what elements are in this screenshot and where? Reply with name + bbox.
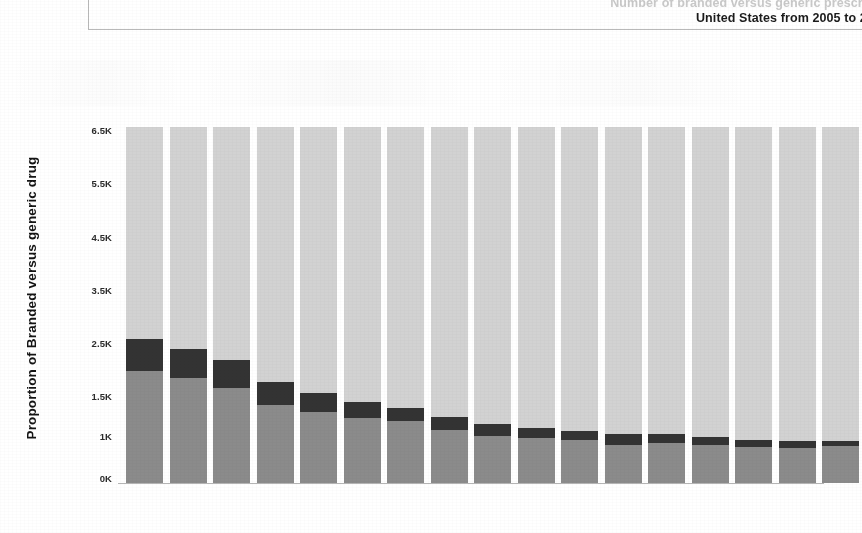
bar-segment-other[interactable] [605, 445, 642, 483]
bar-segment-generic[interactable] [822, 127, 859, 441]
bar-2019[interactable] [735, 127, 772, 483]
bar-segment-generic[interactable] [518, 127, 555, 428]
bar-segment-other[interactable] [300, 412, 337, 483]
bar-2008[interactable] [257, 127, 294, 483]
y-axis-title-label: Proportion of Branded versus generic dru… [24, 157, 39, 440]
bar-segment-generic[interactable] [344, 127, 381, 402]
bar-segment-branded[interactable] [257, 382, 294, 405]
bar-2013[interactable] [474, 127, 511, 483]
y-axis-tick-label: 1.5K [60, 392, 112, 402]
y-axis-title: Proportion of Branded versus generic dru… [18, 108, 44, 488]
bar-2005[interactable] [126, 127, 163, 483]
bar-segment-other[interactable] [648, 443, 685, 483]
bar-2018[interactable] [692, 127, 729, 483]
bar-segment-other[interactable] [126, 371, 163, 483]
bar-2007[interactable] [213, 127, 250, 483]
bar-segment-branded[interactable] [518, 428, 555, 438]
bar-segment-generic[interactable] [431, 127, 468, 417]
bar-2016[interactable] [605, 127, 642, 483]
bar-segment-other[interactable] [170, 378, 207, 483]
y-axis-tick-label: 1K [60, 432, 112, 442]
bar-2010[interactable] [344, 127, 381, 483]
bar-segment-other[interactable] [257, 405, 294, 483]
bar-segment-generic[interactable] [474, 127, 511, 424]
bar-2006[interactable] [170, 127, 207, 483]
bar-segment-generic[interactable] [561, 127, 598, 431]
bar-segment-branded[interactable] [561, 431, 598, 440]
bar-segment-branded[interactable] [213, 360, 250, 388]
y-axis-tick-label: 4.5K [60, 233, 112, 243]
bar-segment-other[interactable] [431, 430, 468, 483]
bar-2012[interactable] [431, 127, 468, 483]
x-axis-baseline [118, 483, 824, 484]
bar-segment-other[interactable] [387, 421, 424, 483]
y-axis-tick-label: 6.5K [60, 126, 112, 136]
bar-2015[interactable] [561, 127, 598, 483]
bar-segment-generic[interactable] [648, 127, 685, 434]
bar-segment-branded[interactable] [431, 417, 468, 430]
bar-segment-generic[interactable] [300, 127, 337, 393]
bar-series-container [118, 112, 830, 487]
bar-2011[interactable] [387, 127, 424, 483]
bar-segment-generic[interactable] [692, 127, 729, 437]
bar-2014[interactable] [518, 127, 555, 483]
bar-segment-generic[interactable] [605, 127, 642, 434]
bar-segment-other[interactable] [213, 388, 250, 483]
bar-segment-other[interactable] [779, 448, 816, 483]
bar-2021[interactable] [822, 127, 859, 483]
y-axis-tick-label: 5.5K [60, 179, 112, 189]
y-axis-ticks: 6.5K5.5K4.5K3.5K2.5K1.5K1K0K [60, 0, 112, 533]
bar-segment-branded[interactable] [300, 393, 337, 412]
bar-segment-other[interactable] [692, 445, 729, 483]
bar-segment-other[interactable] [474, 436, 511, 483]
bar-segment-branded[interactable] [692, 437, 729, 445]
bar-2020[interactable] [779, 127, 816, 483]
bar-segment-generic[interactable] [126, 127, 163, 339]
bar-segment-generic[interactable] [779, 127, 816, 441]
bar-segment-branded[interactable] [648, 434, 685, 443]
y-axis-tick-label: 0K [60, 474, 112, 484]
bar-2017[interactable] [648, 127, 685, 483]
bar-segment-branded[interactable] [735, 440, 772, 447]
bar-segment-branded[interactable] [387, 408, 424, 420]
y-axis-tick-label: 2.5K [60, 339, 112, 349]
bar-segment-generic[interactable] [735, 127, 772, 440]
bar-segment-branded[interactable] [605, 434, 642, 445]
chart-plot-area: Proportion of Branded versus generic dru… [0, 0, 862, 533]
bar-segment-branded[interactable] [474, 424, 511, 436]
bar-segment-other[interactable] [822, 446, 859, 483]
bar-segment-other[interactable] [344, 418, 381, 483]
bar-segment-other[interactable] [518, 438, 555, 483]
bar-segment-generic[interactable] [213, 127, 250, 360]
chart-page: Number of branded versus generic prescri… [0, 0, 862, 533]
bar-segment-other[interactable] [735, 447, 772, 483]
bar-segment-branded[interactable] [344, 402, 381, 418]
bar-segment-generic[interactable] [170, 127, 207, 349]
bar-segment-generic[interactable] [387, 127, 424, 408]
bar-segment-generic[interactable] [257, 127, 294, 382]
bar-segment-branded[interactable] [126, 339, 163, 371]
y-axis-tick-label: 3.5K [60, 286, 112, 296]
bar-segment-branded[interactable] [170, 349, 207, 378]
bar-2009[interactable] [300, 127, 337, 483]
bar-segment-other[interactable] [561, 440, 598, 483]
